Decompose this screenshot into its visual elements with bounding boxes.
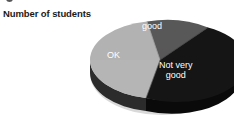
figure-container: Number of students xyxy=(0,0,234,115)
pie-chart-svg xyxy=(84,12,234,115)
clipped-glyph-icon xyxy=(6,0,13,2)
pie-chart xyxy=(84,12,234,115)
page-title: Number of students xyxy=(3,8,91,19)
